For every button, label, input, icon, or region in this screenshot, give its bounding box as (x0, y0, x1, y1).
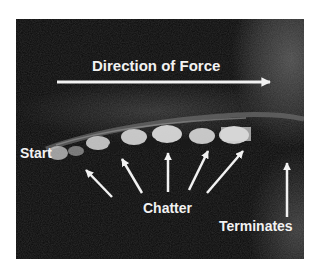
start-label: Start (20, 146, 52, 160)
terminates-label: Terminates (219, 219, 293, 233)
direction-of-force-label: Direction of Force (92, 58, 220, 73)
chatter-label: Chatter (143, 201, 192, 215)
wear-track-photo: Direction of Force Start Chatter Termina… (16, 19, 304, 259)
